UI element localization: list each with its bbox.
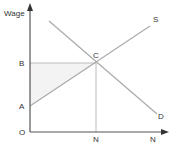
y-axis-label: Wage xyxy=(4,9,25,18)
label-n-equilibrium: N xyxy=(93,135,99,144)
x-axis-arrow-icon xyxy=(161,129,169,135)
label-d: D xyxy=(158,112,164,121)
x-axis-label: N xyxy=(150,135,156,144)
wage-diagram: Wage B A O C N N S D xyxy=(0,0,172,147)
label-c: C xyxy=(93,51,99,60)
y-axis-arrow-icon xyxy=(27,3,33,11)
label-a: A xyxy=(19,102,25,111)
label-b: B xyxy=(19,59,24,68)
label-origin: O xyxy=(19,128,25,137)
label-s: S xyxy=(153,15,158,24)
